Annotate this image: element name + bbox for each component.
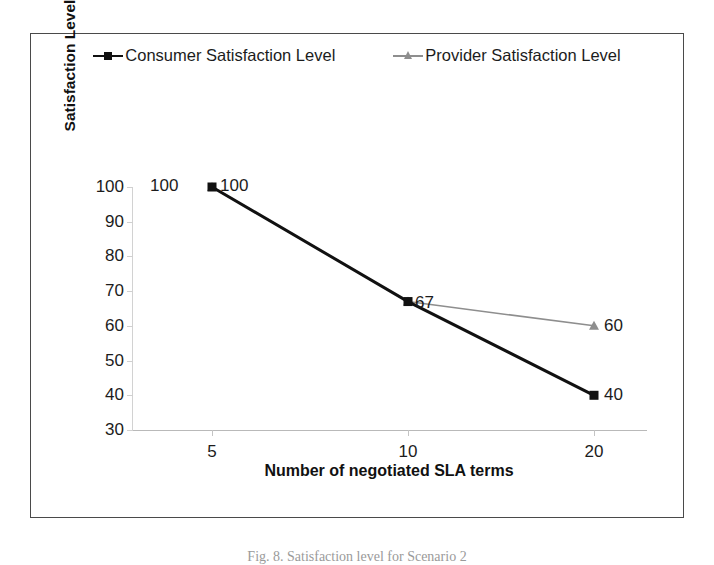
series-plot — [133, 187, 647, 430]
chart-legend: Consumer Satisfaction Level Provider Sat… — [31, 46, 683, 65]
x-tick — [408, 430, 409, 436]
figure-caption: Fig. 8. Satisfaction level for Scenario … — [0, 549, 714, 565]
chart-frame: Consumer Satisfaction Level Provider Sat… — [30, 33, 684, 518]
square-marker-icon — [93, 49, 123, 63]
data-label-100: 100 — [220, 176, 248, 196]
y-axis-title: Satisfaction Level — [60, 0, 80, 187]
square-marker-icon — [590, 391, 599, 400]
series-line-provider — [212, 187, 594, 326]
y-tick-label: 70 — [105, 281, 124, 301]
legend-label-provider: Provider Satisfaction Level — [425, 46, 620, 65]
x-tick — [212, 430, 213, 436]
x-tick-label: 10 — [399, 442, 418, 462]
y-tick-label: 50 — [105, 351, 124, 371]
y-tick-label: 80 — [105, 246, 124, 266]
data-label-60: 60 — [604, 316, 623, 336]
x-tick-label: 20 — [585, 442, 604, 462]
plot-area: 10090807060504030 51020 100676040 100 — [132, 187, 647, 431]
legend-item-consumer[interactable]: Consumer Satisfaction Level — [93, 46, 335, 65]
x-tick-label: 5 — [207, 442, 216, 462]
triangle-marker-icon — [393, 49, 423, 63]
y-tick-label: 100 — [96, 177, 124, 197]
data-label-67: 67 — [415, 293, 434, 313]
y-tick-label: 40 — [105, 385, 124, 405]
annotation-left-100: 100 — [150, 176, 178, 196]
legend-item-provider[interactable]: Provider Satisfaction Level — [393, 46, 620, 65]
y-tick-label: 90 — [105, 212, 124, 232]
x-axis-title: Number of negotiated SLA terms — [132, 462, 646, 480]
series-line-consumer — [212, 187, 594, 395]
y-tick-label: 60 — [105, 316, 124, 336]
square-marker-icon — [208, 183, 217, 192]
data-label-40: 40 — [604, 385, 623, 405]
x-tick — [594, 430, 595, 436]
legend-label-consumer: Consumer Satisfaction Level — [125, 46, 335, 65]
y-tick — [127, 430, 133, 431]
y-tick-label: 30 — [105, 420, 124, 440]
square-marker-icon — [404, 297, 413, 306]
